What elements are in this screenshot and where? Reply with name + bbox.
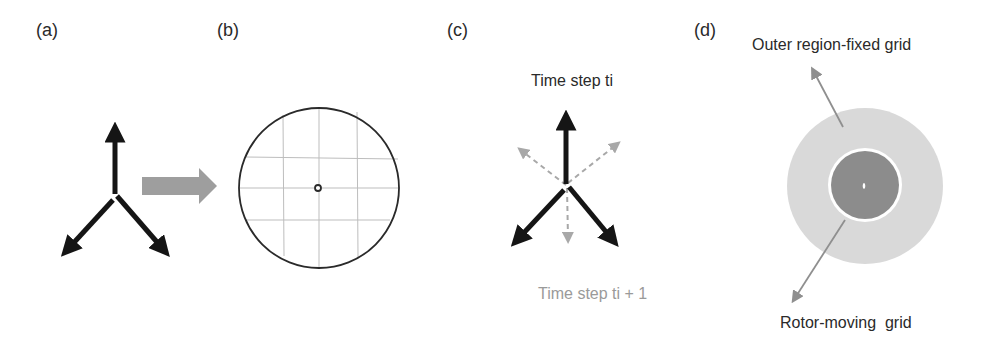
panel-label-a: (a) [36, 21, 58, 39]
panel-label-d: (d) [694, 21, 716, 39]
caption-time-step-next: Time step ti + 1 [538, 286, 647, 302]
rotor-hub-circle [315, 185, 321, 191]
rotor-hub-mark [863, 183, 866, 189]
panel-c-time-steps [518, 120, 616, 239]
caption-rotor-moving-grid: Rotor-moving grid [780, 315, 912, 331]
rotor-down-right-arrow-icon [117, 196, 163, 249]
panel-label-b: (b) [217, 21, 239, 39]
current-step-arrows-icon [518, 120, 612, 239]
transition-block-arrow-icon [142, 168, 217, 204]
figure-canvas: (a) (b) (c) (d) Time step ti Time step t… [0, 0, 991, 342]
caption-outer-fixed-grid: Outer region-fixed grid [752, 37, 911, 53]
panel-d-grid-regions [787, 72, 943, 298]
caption-time-step-current: Time step ti [531, 73, 613, 89]
panel-label-c: (c) [447, 21, 468, 39]
rotor-down-left-arrow-icon [68, 200, 113, 249]
panel-b-grid-domain [239, 108, 399, 268]
